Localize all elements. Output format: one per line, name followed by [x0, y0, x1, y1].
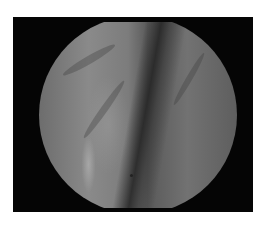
tissue-fold	[171, 52, 206, 107]
lesion-spot	[130, 174, 133, 177]
image-frame	[13, 17, 253, 212]
endoscopic-view	[39, 22, 237, 208]
scope-field-clip	[13, 22, 253, 208]
tissue-fold	[81, 79, 127, 140]
tissue-fold	[61, 42, 117, 79]
